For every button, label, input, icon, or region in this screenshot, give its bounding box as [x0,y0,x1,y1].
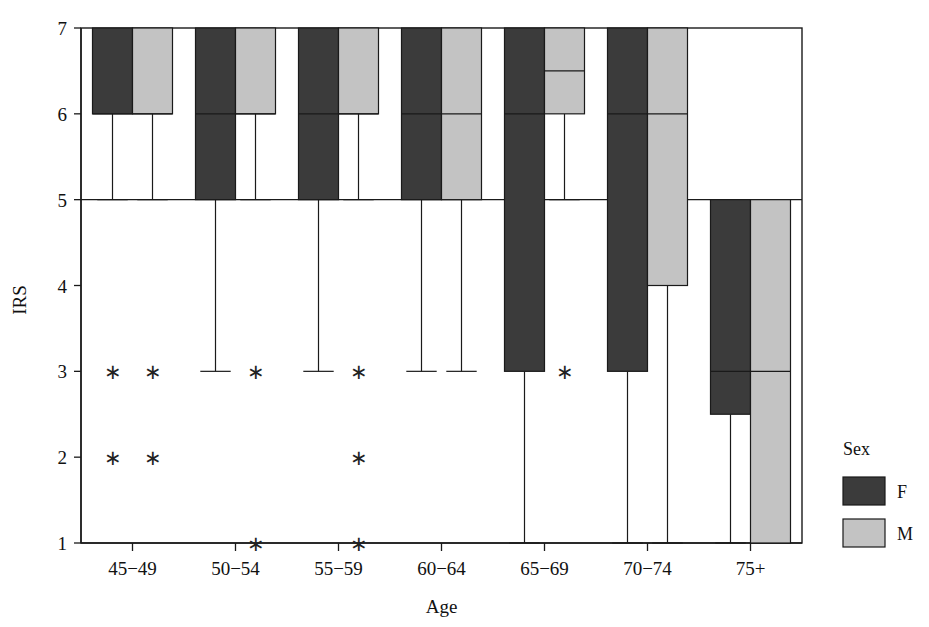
y-tick-label: 7 [58,18,68,39]
y-axis-title: IRS [9,285,30,315]
outlier-marker: ∗ [350,360,368,384]
y-tick-label: 3 [58,361,68,382]
outlier-marker: ∗ [104,446,122,470]
x-tick-label: 50−54 [211,558,260,579]
x-tick-label: 45−49 [108,558,157,579]
legend-label-M: M [897,524,913,544]
outlier-marker: ∗ [144,446,162,470]
x-tick-label: 65−69 [520,558,569,579]
y-tick-label: 4 [58,276,68,297]
box-rect [93,28,133,114]
outlier-marker: ∗ [144,360,162,384]
box-rect [505,28,545,371]
outlier-marker: ∗ [350,446,368,470]
legend-swatch-M [843,519,885,547]
x-tick-label: 55−59 [314,558,363,579]
outlier-marker: ∗ [556,360,574,384]
boxplot-figure: 1234567 45−4950−5455−5960−6465−6970−7475… [0,0,929,627]
box-rect [711,200,751,415]
box-rect [608,28,648,371]
y-tick-label: 2 [58,447,68,468]
x-tick-label: 75+ [736,558,766,579]
legend-swatch-F [843,477,885,505]
outlier-marker: ∗ [247,360,265,384]
y-tick-label: 1 [58,533,68,554]
box-rect [339,28,379,114]
box-group [751,200,791,543]
legend-label-F: F [897,482,907,502]
x-axis-title: Age [426,596,458,617]
box-rect [133,28,173,114]
outlier-marker: ∗ [350,532,368,556]
x-tick-label: 60−64 [417,558,466,579]
outlier-marker: ∗ [104,360,122,384]
legend-title: Sex [843,439,870,459]
y-tick-label: 5 [58,190,68,211]
legend-layer: SexFM [843,439,913,547]
box-rect [648,28,688,286]
y-tick-label: 6 [58,104,68,125]
x-axis: 45−4950−5455−5960−6465−6970−7475+ [81,543,802,579]
box-rect [236,28,276,114]
chart-canvas: 1234567 45−4950−5455−5960−6465−6970−7475… [0,0,929,627]
x-tick-label: 70−74 [623,558,672,579]
outlier-marker: ∗ [247,532,265,556]
